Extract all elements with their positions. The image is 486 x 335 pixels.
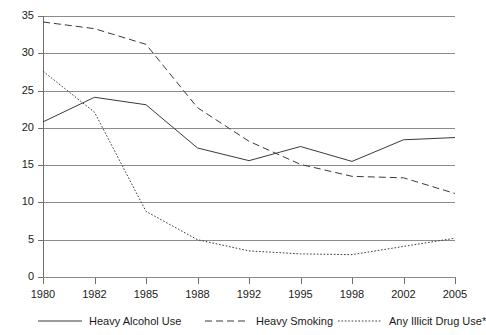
x-axis-tick-label: 1982 bbox=[70, 288, 120, 300]
chart-legend: Heavy Alcohol Use Heavy Smoking Any Illi… bbox=[0, 312, 482, 332]
legend-swatch-dashed-icon bbox=[205, 316, 249, 326]
y-axis-line bbox=[43, 16, 44, 278]
gridline bbox=[43, 202, 455, 203]
x-axis-tick bbox=[352, 278, 353, 284]
x-axis-tick bbox=[95, 278, 96, 284]
x-axis-tick-label: 1980 bbox=[18, 288, 68, 300]
x-axis-tick bbox=[43, 278, 44, 284]
x-axis-tick-label: 1998 bbox=[327, 288, 377, 300]
x-axis-tick bbox=[198, 278, 199, 284]
y-axis-tick-label: 30 bbox=[4, 47, 34, 58]
gridline bbox=[43, 240, 455, 241]
gridline bbox=[43, 16, 455, 17]
x-axis-tick-label: 1985 bbox=[121, 288, 171, 300]
legend-item-heavy-smoking[interactable]: Heavy Smoking bbox=[205, 312, 333, 330]
legend-item-any-illicit-drug-use[interactable]: Any Illicit Drug Use* bbox=[338, 312, 486, 330]
legend-label: Heavy Alcohol Use bbox=[89, 315, 181, 327]
y-axis-labels: 05101520253035 bbox=[0, 0, 34, 335]
gridline bbox=[43, 165, 455, 166]
legend-item-heavy-alcohol-use[interactable]: Heavy Alcohol Use bbox=[38, 312, 181, 330]
y-axis-tick-label: 0 bbox=[4, 271, 34, 282]
x-axis-tick-label: 1995 bbox=[276, 288, 326, 300]
y-axis-tick-label: 10 bbox=[4, 196, 34, 207]
y-axis-tick-label: 35 bbox=[4, 10, 34, 21]
gridline bbox=[43, 128, 455, 129]
x-axis-tick-label: 1992 bbox=[224, 288, 274, 300]
y-axis-tick-label: 5 bbox=[4, 234, 34, 245]
x-axis-tick bbox=[301, 278, 302, 284]
x-axis-tick bbox=[146, 278, 147, 284]
x-axis-tick bbox=[455, 278, 456, 284]
y-axis-tick-label: 20 bbox=[4, 122, 34, 133]
legend-label: Heavy Smoking bbox=[256, 315, 333, 327]
plot-area bbox=[43, 16, 455, 277]
x-axis-tick bbox=[249, 278, 250, 284]
x-axis-tick-label: 2002 bbox=[379, 288, 429, 300]
legend-swatch-solid-icon bbox=[38, 316, 82, 326]
legend-label: Any Illicit Drug Use* bbox=[389, 315, 486, 327]
y-axis-tick-label: 25 bbox=[4, 85, 34, 96]
y-axis-tick-label: 15 bbox=[4, 159, 34, 170]
x-axis-tick-label: 2005 bbox=[430, 288, 480, 300]
gridline bbox=[43, 91, 455, 92]
gridline bbox=[43, 53, 455, 54]
x-axis-tick-label: 1988 bbox=[173, 288, 223, 300]
x-axis-tick bbox=[404, 278, 405, 284]
legend-swatch-dotted-icon bbox=[338, 316, 382, 326]
